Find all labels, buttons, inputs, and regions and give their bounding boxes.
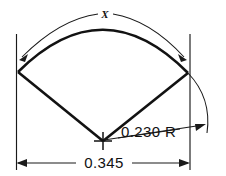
arc-length-dimension-group: X (19, 8, 187, 62)
width-dimension-group: 0.345 (17, 154, 191, 171)
radius-dimension-group: 0.230 R (104, 73, 208, 140)
left-radial-edge (18, 72, 103, 141)
radius-label: 0.230 R (121, 123, 176, 140)
outer-arc-edge (18, 30, 188, 73)
width-dimension-arrow-left (17, 159, 28, 167)
radius-dimension-arrow (195, 124, 206, 131)
arc-dimension-line-left (22, 14, 98, 57)
technical-drawing-canvas: X 0.230 R 0.345 (0, 0, 226, 176)
arc-dimension-line-right (113, 14, 184, 57)
width-dimension-arrow-right (179, 159, 190, 167)
arc-length-label: X (100, 8, 109, 20)
drawing-svg: X 0.230 R 0.345 (0, 0, 226, 176)
width-label: 0.345 (84, 154, 124, 171)
